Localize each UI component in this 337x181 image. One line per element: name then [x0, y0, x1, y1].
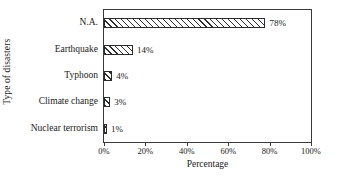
category-label: Climate change: [39, 98, 98, 108]
bars-layer: 78%14%4%3%1%: [104, 10, 311, 142]
bar-chart: Type of disasters N.A.EarthquakeTyphoonC…: [0, 0, 337, 181]
bar: [104, 18, 265, 28]
x-tick-label: 100%: [301, 147, 321, 156]
bar-value-label: 1%: [111, 124, 123, 133]
bar-value-label: 3%: [114, 98, 126, 107]
bar: [104, 45, 133, 55]
bar-value-label: 78%: [269, 19, 286, 28]
x-axis-ticks: 0%20%40%60%80%100%: [104, 143, 311, 159]
x-tick-label: 60%: [220, 147, 236, 156]
x-tick-label: 20%: [138, 147, 154, 156]
category-axis-labels: N.A.EarthquakeTyphoonClimate changeNucle…: [14, 9, 101, 143]
bar: [104, 71, 112, 81]
bar-value-label: 4%: [116, 72, 128, 81]
category-label: Earthquake: [55, 45, 98, 55]
x-tick-label: 40%: [179, 147, 195, 156]
x-axis-title: Percentage: [104, 160, 311, 170]
bar: [104, 97, 110, 107]
bar-value-label: 14%: [137, 45, 154, 54]
x-tick-label: 80%: [262, 147, 278, 156]
category-label: Typhoon: [64, 71, 98, 81]
x-tick-label: 0%: [98, 147, 109, 156]
category-label: Nuclear terrorism: [31, 124, 98, 134]
category-label: N.A.: [80, 18, 98, 28]
bar: [104, 124, 107, 134]
y-axis-title-text: Type of disasters: [3, 39, 13, 105]
